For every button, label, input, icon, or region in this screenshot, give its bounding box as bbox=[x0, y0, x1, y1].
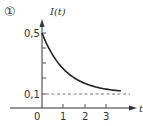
chart-figure: ① I(t) t 0,5 0,1 0 1 2 3 bbox=[0, 0, 143, 126]
y-tick-label-0-1: 0,1 bbox=[24, 89, 40, 100]
y-axis-label: I(t) bbox=[49, 6, 66, 17]
decay-curve bbox=[42, 33, 121, 91]
x-tick-label-3: 3 bbox=[103, 111, 109, 122]
x-axis-arrow-icon bbox=[129, 106, 137, 111]
x-tick-label-0: 0 bbox=[34, 111, 40, 122]
x-ticks bbox=[63, 104, 106, 108]
x-tick-label-1: 1 bbox=[60, 111, 66, 122]
y-axis-arrow-icon bbox=[40, 19, 45, 27]
figure-marker: ① bbox=[4, 4, 16, 19]
x-tick-label-2: 2 bbox=[82, 111, 88, 122]
x-axis-label: t bbox=[139, 103, 143, 114]
y-tick-label-0-5: 0,5 bbox=[24, 28, 40, 39]
